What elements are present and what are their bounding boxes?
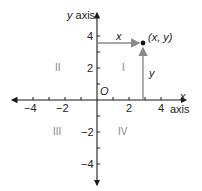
y-axis-label: y axis — [67, 10, 95, 21]
y-tick-label: 4 — [87, 31, 93, 42]
origin-label: O — [100, 86, 109, 97]
quadrant-label-IV: IV — [118, 127, 127, 137]
x-tick-label: −4 — [24, 103, 37, 114]
x-tick-label: 2 — [126, 103, 132, 114]
y-tick-label: 2 — [87, 63, 93, 74]
y-tick-label: −4 — [81, 159, 94, 170]
point-label: (x, y) — [148, 32, 172, 43]
y-axis-label-word: axis — [76, 9, 96, 21]
y-axis-label-var: y — [67, 9, 73, 21]
x-tick-label: −2 — [56, 103, 69, 114]
y-segment-label: y — [149, 68, 155, 79]
y-tick-label: −2 — [81, 127, 94, 138]
quadrant-label-I: I — [122, 63, 125, 73]
quadrant-label-II: II — [55, 63, 61, 73]
x-tick-label: 4 — [158, 103, 164, 114]
x-axis-label-var: x — [180, 91, 186, 102]
coordinate-plane: y axis x axis O −4 −2 2 4 4 2 −2 −4 I II… — [0, 0, 202, 191]
x-segment-label: x — [116, 31, 122, 42]
quadrant-label-III: III — [53, 127, 61, 137]
x-axis-label-word: axis — [170, 104, 190, 115]
point-marker — [141, 41, 146, 46]
